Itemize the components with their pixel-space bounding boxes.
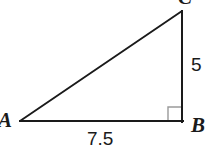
side-ac-hypotenuse-line xyxy=(20,11,182,121)
vertex-label-c: C xyxy=(178,0,192,8)
vertex-label-b: B xyxy=(191,115,205,136)
triangle-figure: A B C 5 7.5 xyxy=(0,0,212,153)
side-length-label-cb: 5 xyxy=(191,55,202,74)
vertex-label-a: A xyxy=(0,110,12,131)
side-length-label-ab: 7.5 xyxy=(87,129,113,148)
right-angle-marker-icon xyxy=(168,107,182,121)
